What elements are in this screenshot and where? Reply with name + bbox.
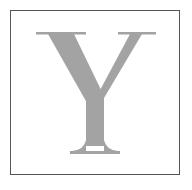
letter-y-glyph: Y <box>0 0 192 190</box>
